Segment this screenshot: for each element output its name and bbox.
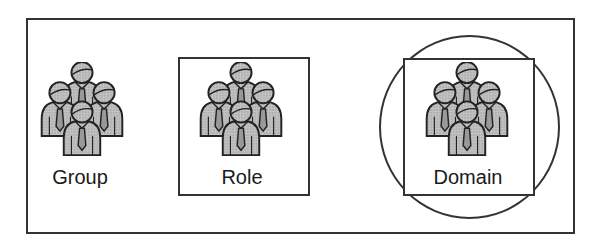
domain-label: Domain — [408, 166, 528, 188]
people-group-icon — [37, 62, 127, 158]
people-group-icon — [422, 62, 512, 158]
group-label: Group — [20, 166, 140, 188]
people-group-icon — [196, 62, 286, 158]
role-label: Role — [182, 166, 302, 188]
